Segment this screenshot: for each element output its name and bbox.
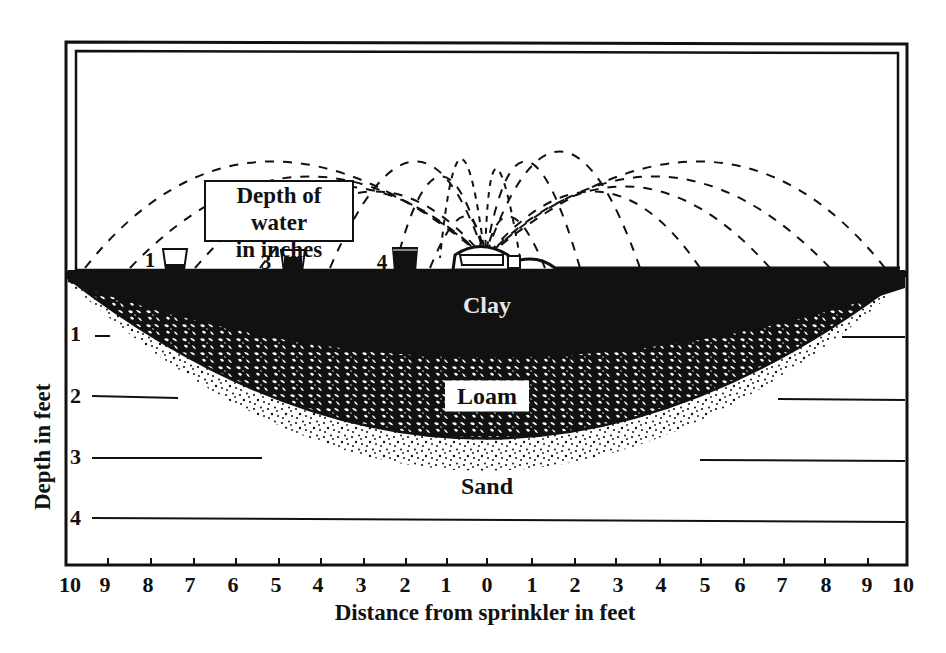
x-tick: 0 bbox=[482, 572, 493, 598]
rain-gauge-4 bbox=[393, 248, 417, 272]
y-tick-3: 3 bbox=[70, 444, 81, 470]
y-axis-label: Depth in feet bbox=[30, 384, 56, 510]
legend-line-2: in inches bbox=[206, 236, 352, 263]
x-tick: 2 bbox=[400, 572, 411, 598]
x-tick: 6 bbox=[735, 572, 746, 598]
sprinkler-icon bbox=[453, 247, 900, 271]
x-tick: 6 bbox=[228, 572, 239, 598]
x-tick: 5 bbox=[700, 572, 711, 598]
x-tick: 7 bbox=[185, 572, 196, 598]
x-tick: 4 bbox=[656, 572, 667, 598]
x-tick: 9 bbox=[862, 572, 873, 598]
x-tick: 3 bbox=[356, 572, 367, 598]
gauge-label-3: 3 bbox=[261, 250, 272, 275]
gauge-label-1: 1 bbox=[145, 248, 156, 273]
y-tick-1: 1 bbox=[70, 321, 81, 347]
x-tick: 8 bbox=[821, 572, 832, 598]
legend-box: Depth of water in inches bbox=[204, 180, 354, 242]
x-tick: 9 bbox=[100, 572, 111, 598]
x-tick: 10 bbox=[59, 572, 81, 598]
x-tick: 1 bbox=[527, 572, 538, 598]
x-tick: 3 bbox=[613, 572, 624, 598]
legend-line-1: Depth of water bbox=[206, 182, 352, 236]
diagram-svg bbox=[0, 0, 946, 653]
x-tick: 4 bbox=[313, 572, 324, 598]
x-tick: 8 bbox=[143, 572, 154, 598]
y-tick-4: 4 bbox=[70, 505, 81, 531]
x-tick: 10 bbox=[892, 572, 914, 598]
clay-label: Clay bbox=[463, 292, 511, 319]
x-tick: 5 bbox=[271, 572, 282, 598]
x-tick: 7 bbox=[777, 572, 788, 598]
rain-gauge-1 bbox=[163, 249, 187, 270]
gauge-label-4: 4 bbox=[377, 250, 388, 275]
x-tick: 2 bbox=[570, 572, 581, 598]
loam-label: Loam bbox=[445, 381, 529, 412]
sprinkler-soil-diagram: Depth of water in inches 1 3 4 Clay Loam… bbox=[0, 0, 946, 653]
sand-label: Sand bbox=[443, 471, 531, 502]
x-axis-label: Distance from sprinkler in feet bbox=[0, 600, 946, 626]
x-tick: 1 bbox=[441, 572, 452, 598]
y-tick-2: 2 bbox=[70, 383, 81, 409]
